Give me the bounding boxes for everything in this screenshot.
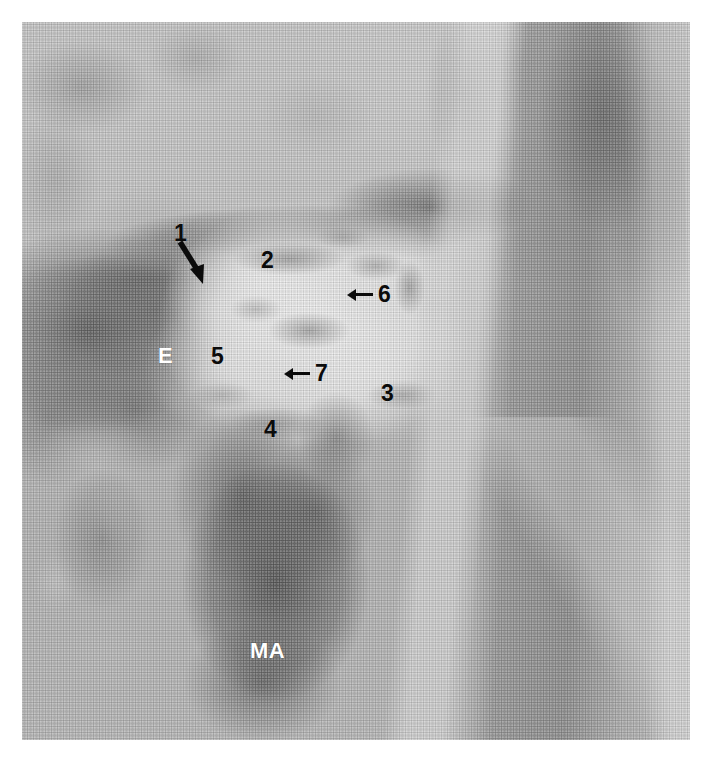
halftone-dot-screen (22, 22, 690, 740)
annotation-group-7: 7 (284, 362, 328, 385)
annotation-label-5: 5 (211, 345, 224, 368)
annotation-arrow-6-icon (347, 289, 373, 301)
dark-curved-band (22, 22, 690, 740)
tissue-base-field (22, 22, 690, 740)
figure-root: 1 2 6 E 5 7 3 4 MA (0, 0, 710, 765)
annotation-group-6: 6 (347, 283, 391, 306)
scan-image-plate (22, 22, 690, 740)
annotation-label-6: 6 (378, 283, 391, 306)
right-vertical-bands (22, 22, 690, 740)
annotation-label-ma: MA (250, 640, 285, 662)
internal-duct-structures (22, 22, 690, 740)
annotation-label-4: 4 (264, 418, 277, 441)
annotation-label-e: E (158, 345, 173, 367)
central-bright-gland-oval (22, 22, 690, 740)
annotation-label-7: 7 (315, 362, 328, 385)
ma-dark-mass-region (22, 22, 690, 740)
left-dark-mass-region (22, 22, 690, 740)
annotation-arrow-7-icon (284, 368, 310, 380)
annotation-label-2: 2 (261, 249, 274, 272)
film-grain-texture (22, 22, 690, 740)
lower-right-light-streak (22, 417, 690, 740)
upper-soft-tissue-mottling (22, 22, 690, 740)
bottom-left-ring-structure (22, 22, 690, 740)
annotation-arrow-1-icon (176, 240, 210, 286)
annotation-label-3: 3 (381, 382, 394, 405)
